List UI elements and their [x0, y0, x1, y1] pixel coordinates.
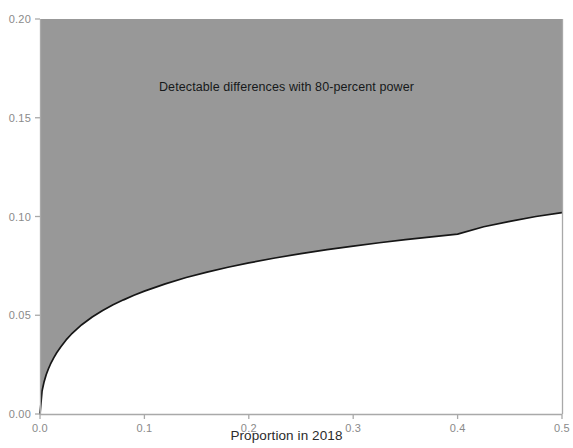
chart-figure: 0.000.050.100.150.20 0.00.10.20.30.40.5 …	[0, 0, 573, 448]
y-tick-label-4: 0.20	[0, 13, 31, 25]
x-axis-title: Proportion in 2018	[0, 428, 573, 443]
chart-plot-area	[0, 0, 573, 448]
shaded-region-group	[40, 19, 562, 414]
y-tick-label-3: 0.15	[0, 112, 31, 124]
y-tick-label-0: 0.00	[0, 408, 31, 420]
y-tick-label-2: 0.10	[0, 211, 31, 223]
chart-annotation-label: Detectable differences with 80-percent p…	[0, 80, 573, 94]
shaded-region-above-curve	[40, 19, 562, 414]
y-tick-label-1: 0.05	[0, 309, 31, 321]
